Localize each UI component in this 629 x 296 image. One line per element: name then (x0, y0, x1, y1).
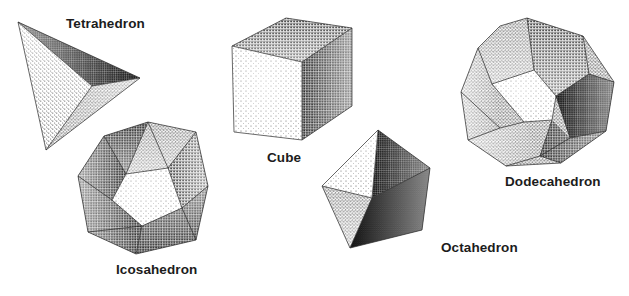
label-tetrahedron: Tetrahedron (66, 16, 145, 32)
cube-face-front (232, 46, 302, 140)
label-dodecahedron: Dodecahedron (505, 174, 601, 190)
label-cube: Cube (267, 150, 301, 166)
label-icosahedron: Icosahedron (116, 262, 197, 278)
label-octahedron: Octahedron (441, 240, 518, 256)
solids-illustration (0, 0, 629, 296)
platonic-solids-figure: Tetrahedron Cube Octahedron Dodecahedron… (0, 0, 629, 296)
